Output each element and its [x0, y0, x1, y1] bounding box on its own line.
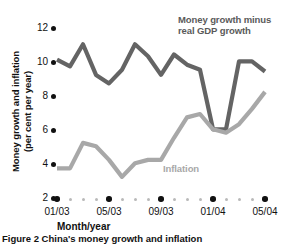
x-tick-dot-minor [69, 198, 72, 201]
x-axis-title: Month/year [57, 221, 110, 232]
x-tick-dot-minor [199, 198, 202, 201]
x-tick-dot-major [54, 196, 60, 202]
x-tick-dot-major [106, 196, 112, 202]
x-tick-label-2: 09/03 [141, 206, 181, 217]
x-tick-dot-major [210, 196, 216, 202]
x-tick-dot-minor [173, 198, 176, 201]
series-line-money-growth [57, 44, 265, 129]
x-tick-label-0: 01/03 [37, 206, 77, 217]
x-tick-dot-minor [147, 198, 150, 201]
series-label-money-growth: Money growth minus real GDP growth [178, 14, 300, 36]
figure-caption: Figure 2 China's money growth and inflat… [2, 233, 202, 244]
x-tick-dot-minor [134, 198, 137, 201]
series-line-inflation [57, 92, 265, 177]
x-tick-label-4: 05/04 [245, 206, 285, 217]
x-tick-dot-minor [225, 198, 228, 201]
x-tick-dot-minor [95, 198, 98, 201]
x-tick-dot-minor [82, 198, 85, 201]
x-tick-dot-minor [121, 198, 124, 201]
series-label-inflation: Inflation [163, 163, 199, 174]
x-tick-label-3: 01/04 [193, 206, 233, 217]
chart-figure: Money growth and inflation (per cent per… [0, 0, 304, 244]
x-tick-dot-major [262, 196, 268, 202]
series-label-money-line1: Money growth minus [178, 14, 271, 25]
x-tick-dot-major [158, 196, 164, 202]
series-label-money-line2: real GDP growth [178, 25, 251, 36]
x-tick-dot-minor [186, 198, 189, 201]
x-tick-dot-minor [251, 198, 254, 201]
x-tick-label-1: 05/03 [89, 206, 129, 217]
x-tick-dot-minor [238, 198, 241, 201]
